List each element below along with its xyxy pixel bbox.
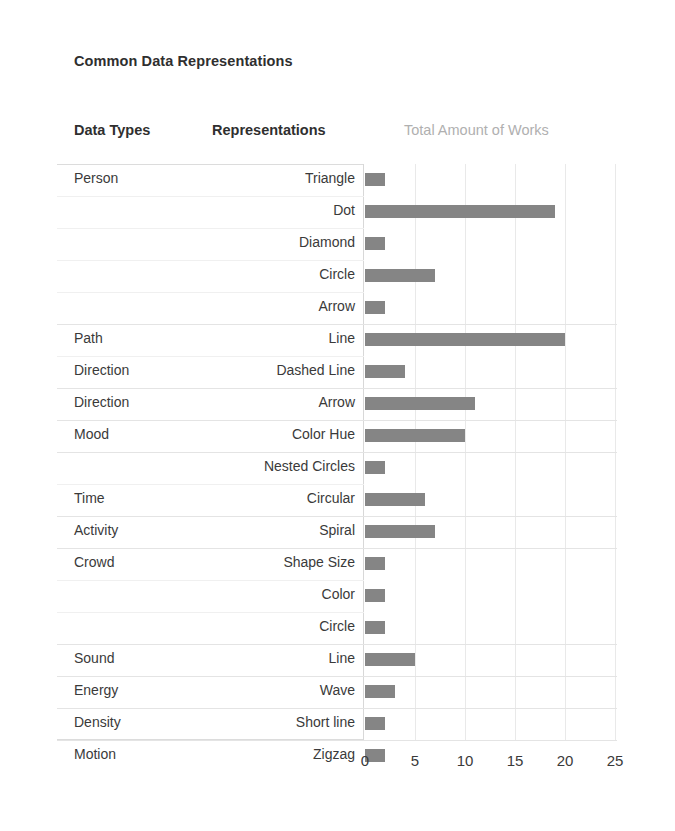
cell-representation: Short line bbox=[157, 714, 355, 730]
row-separator bbox=[57, 612, 364, 613]
row-separator bbox=[57, 356, 364, 357]
cell-representation: Dashed Line bbox=[157, 362, 355, 378]
cell-representation: Line bbox=[157, 650, 355, 666]
x-axis-tick-10: 10 bbox=[457, 752, 474, 769]
bar bbox=[365, 525, 435, 538]
cell-representation: Circle bbox=[157, 266, 355, 282]
group-separator bbox=[57, 420, 617, 421]
x-axis-tick-0: 0 bbox=[361, 752, 369, 769]
table-row: PathLine bbox=[57, 324, 617, 356]
table-row: Circle bbox=[57, 260, 617, 292]
group-separator bbox=[57, 708, 617, 709]
bar bbox=[365, 237, 385, 250]
cell-representation: Spiral bbox=[157, 522, 355, 538]
row-separator bbox=[57, 580, 364, 581]
row-separator bbox=[57, 484, 364, 485]
cell-representation: Arrow bbox=[157, 394, 355, 410]
table-row: Nested Circles bbox=[57, 452, 617, 484]
bar bbox=[365, 493, 425, 506]
column-header-row: Data Types Representations Total Amount … bbox=[57, 122, 617, 152]
bar bbox=[365, 717, 385, 730]
x-axis-tick-5: 5 bbox=[411, 752, 419, 769]
cell-representation: Diamond bbox=[157, 234, 355, 250]
group-separator bbox=[57, 548, 617, 549]
bar bbox=[365, 365, 405, 378]
table-row: ActivitySpiral bbox=[57, 516, 617, 548]
bar bbox=[365, 397, 475, 410]
cell-representation: Arrow bbox=[157, 298, 355, 314]
table-row: DensityShort line bbox=[57, 708, 617, 740]
bar bbox=[365, 205, 555, 218]
column-header-total-amount-of-works: Total Amount of Works bbox=[404, 122, 549, 138]
cell-representation: Color bbox=[157, 586, 355, 602]
cell-data-type: Crowd bbox=[74, 554, 114, 570]
cell-representation: Color Hue bbox=[157, 426, 355, 442]
table-row: Dot bbox=[57, 196, 617, 228]
bar bbox=[365, 301, 385, 314]
group-separator bbox=[57, 324, 617, 325]
bar bbox=[365, 653, 415, 666]
cell-data-type: Activity bbox=[74, 522, 118, 538]
cell-representation: Shape Size bbox=[157, 554, 355, 570]
cell-data-type: Time bbox=[74, 490, 105, 506]
column-header-representations: Representations bbox=[212, 122, 326, 138]
table-row: EnergyWave bbox=[57, 676, 617, 708]
cell-data-type: Energy bbox=[74, 682, 118, 698]
row-separator bbox=[57, 292, 364, 293]
group-separator bbox=[57, 644, 617, 645]
cell-data-type: Person bbox=[74, 170, 118, 186]
cell-representation: Nested Circles bbox=[157, 458, 355, 474]
bar bbox=[365, 685, 395, 698]
cell-representation: Triangle bbox=[157, 170, 355, 186]
page-title: Common Data Representations bbox=[74, 53, 293, 69]
table-row: Diamond bbox=[57, 228, 617, 260]
cell-representation: Circle bbox=[157, 618, 355, 634]
cell-data-type: Mood bbox=[74, 426, 109, 442]
group-separator bbox=[57, 676, 617, 677]
table-row: DirectionArrow bbox=[57, 388, 617, 420]
bar bbox=[365, 589, 385, 602]
group-separator bbox=[57, 516, 617, 517]
x-axis-tick-15: 15 bbox=[507, 752, 524, 769]
table-row: Arrow bbox=[57, 292, 617, 324]
bar bbox=[365, 269, 435, 282]
cell-data-type: Sound bbox=[74, 650, 114, 666]
chart-figure: Common Data Representations Data Types R… bbox=[0, 0, 675, 831]
group-separator bbox=[57, 388, 617, 389]
cell-representation: Line bbox=[157, 330, 355, 346]
bar bbox=[365, 461, 385, 474]
table-row: CrowdShape Size bbox=[57, 548, 617, 580]
table-row: MoodColor Hue bbox=[57, 420, 617, 452]
bar bbox=[365, 621, 385, 634]
table-row: DirectionDashed Line bbox=[57, 356, 617, 388]
row-separator bbox=[57, 260, 364, 261]
table-row: Color bbox=[57, 580, 617, 612]
row-separator bbox=[57, 228, 364, 229]
cell-representation: Circular bbox=[157, 490, 355, 506]
table-row: Circle bbox=[57, 612, 617, 644]
cell-data-type: Density bbox=[74, 714, 121, 730]
row-separator bbox=[57, 196, 364, 197]
cell-data-type: Direction bbox=[74, 394, 129, 410]
group-separator bbox=[57, 452, 617, 453]
cell-representation: Wave bbox=[157, 682, 355, 698]
group-separator bbox=[57, 740, 617, 741]
bar bbox=[365, 429, 465, 442]
chart-plot-area: PersonTriangleDotDiamondCircleArrowPathL… bbox=[57, 164, 617, 740]
cell-data-type: Path bbox=[74, 330, 103, 346]
table-row: SoundLine bbox=[57, 644, 617, 676]
x-axis: 0510152025 bbox=[57, 752, 617, 782]
bar bbox=[365, 173, 385, 186]
table-row: TimeCircular bbox=[57, 484, 617, 516]
table-row: PersonTriangle bbox=[57, 164, 617, 196]
bar bbox=[365, 557, 385, 570]
x-axis-tick-25: 25 bbox=[607, 752, 624, 769]
cell-data-type: Direction bbox=[74, 362, 129, 378]
cell-representation: Dot bbox=[157, 202, 355, 218]
column-header-data-types: Data Types bbox=[74, 122, 150, 138]
x-axis-tick-20: 20 bbox=[557, 752, 574, 769]
bar bbox=[365, 333, 565, 346]
